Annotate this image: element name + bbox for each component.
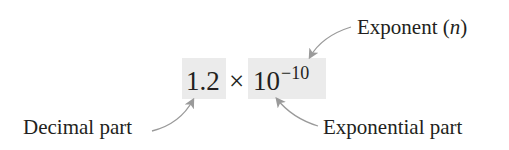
exponential-arrow [277, 99, 318, 126]
arrows [0, 0, 509, 150]
exponent-arrow [310, 27, 351, 57]
decimal-arrow [152, 100, 193, 131]
